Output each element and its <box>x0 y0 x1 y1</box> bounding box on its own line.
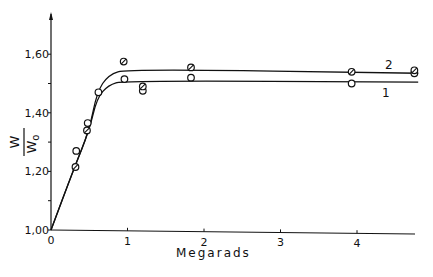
axes <box>49 12 415 234</box>
y-tick-label: 1,60 <box>25 48 50 61</box>
crossed-circle-marker <box>72 164 79 171</box>
y-axis-arrow <box>49 12 53 20</box>
crossed-circle-marker <box>140 83 147 90</box>
y-tick-label: 1,40 <box>25 107 50 120</box>
chart: 1,001,201,401,60 01234 Megarads W Wo 2 1 <box>0 0 433 277</box>
series-1-curve <box>51 81 418 230</box>
crossed-circle-marker <box>120 58 127 65</box>
open-circle-marker <box>348 80 355 87</box>
open-circle-marker <box>95 89 102 96</box>
open-circle-marker <box>121 76 128 83</box>
x-tick-label: 3 <box>277 236 284 249</box>
y-tick-label: 1,20 <box>25 165 50 178</box>
x-axis <box>51 230 415 234</box>
open-circle-marker <box>84 120 91 127</box>
x-tick-label: 0 <box>48 234 55 247</box>
crossed-circle-marker <box>411 67 418 74</box>
crossed-circle-marker <box>188 64 195 71</box>
series-2-curve <box>51 70 418 230</box>
y-label-numerator: W <box>7 135 22 148</box>
x-tick-label: 1 <box>124 235 131 248</box>
series-1-label: 1 <box>382 86 390 100</box>
open-circle-marker <box>188 74 195 81</box>
open-circle-marker <box>73 148 80 155</box>
y-axis-title: W Wo <box>7 128 41 156</box>
crossed-circle-marker <box>84 127 91 134</box>
y-tick-label: 1,00 <box>25 224 50 237</box>
y-label-denominator: Wo <box>24 135 41 154</box>
curves <box>51 70 418 230</box>
crossed-circle-marker <box>348 68 355 75</box>
series-2-label: 2 <box>385 58 393 72</box>
x-tick-label: 4 <box>354 237 361 250</box>
x-axis-title: Megarads <box>176 246 251 260</box>
data-points <box>72 58 417 170</box>
